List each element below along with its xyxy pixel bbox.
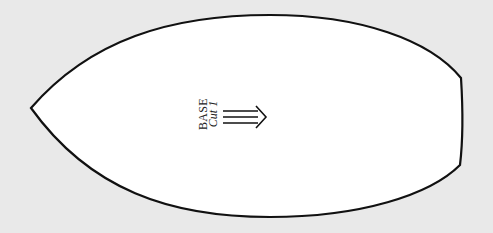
pattern-piece-diagram bbox=[0, 0, 493, 233]
piece-label: BASE Cut 1 bbox=[196, 94, 220, 134]
base-outline bbox=[31, 15, 462, 217]
cut-instruction: Cut 1 bbox=[208, 98, 218, 130]
